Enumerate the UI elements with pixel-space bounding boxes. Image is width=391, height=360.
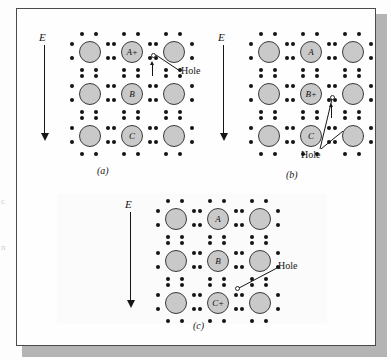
caption-b: (b) — [286, 169, 298, 180]
figure-plate: E A+ — [16, 8, 376, 346]
hole-label-c: Hole — [278, 260, 297, 271]
hole-label-b: Hole — [301, 149, 320, 160]
caption-c: (c) — [193, 320, 204, 331]
panel-a: E A+ — [25, 23, 200, 183]
caption-a: (a) — [97, 165, 109, 176]
panel-b: E A — [210, 23, 375, 188]
margin-text-fragment-2: n — [1, 242, 6, 252]
hole-leader-b — [210, 23, 375, 188]
margin-text-fragment-1: c — [1, 196, 5, 206]
hole-leader-a — [25, 23, 200, 183]
panel-c: E A — [117, 194, 317, 339]
hole-label-a: Hole — [181, 65, 200, 76]
figure-page: c n E A+ — [0, 0, 391, 360]
